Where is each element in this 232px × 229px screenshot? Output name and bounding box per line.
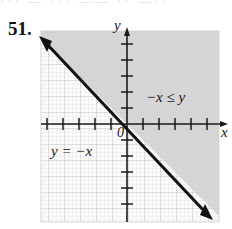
graph-svg [0, 0, 232, 229]
origin-label: 0 [117, 125, 124, 141]
coordinate-graph: y x 0 −x ≤ y y = −x [0, 0, 232, 229]
x-axis-label: x [221, 124, 228, 141]
y-axis-label: y [114, 17, 121, 34]
inequality-label: −x ≤ y [146, 89, 185, 106]
boundary-line-equation-label: y = −x [51, 143, 92, 160]
figure-page: ··· — ··· —— ·· —·· 51. [0, 0, 232, 229]
